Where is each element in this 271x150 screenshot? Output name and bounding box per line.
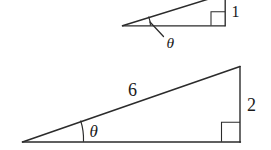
small-triangle-opposite-label: 1 [232,3,240,20]
large-triangle-hypotenuse-label: 6 [128,80,137,100]
large-triangle-opposite-label: 2 [247,95,256,115]
figure-canvas: θ 1 θ 6 2 [0,0,271,150]
small-triangle-angle-label: θ [167,34,175,51]
large-triangle-angle-label: θ [90,122,98,141]
geometry-figure: θ 1 θ 6 2 [0,0,271,150]
